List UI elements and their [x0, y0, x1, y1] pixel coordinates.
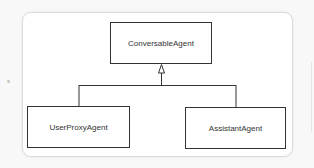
margin-text-fragment: s	[7, 78, 10, 84]
page-canvas: s ConversableAgent UserProxyAgent Assist…	[0, 0, 314, 168]
page-edge-line	[311, 62, 312, 132]
class-box-conversable-agent: ConversableAgent	[110, 22, 212, 64]
class-label: AssistantAgent	[209, 124, 262, 133]
class-box-assistant-agent: AssistantAgent	[185, 107, 286, 149]
class-label: UserProxyAgent	[49, 123, 107, 132]
class-label: ConversableAgent	[128, 39, 194, 48]
class-box-user-proxy-agent: UserProxyAgent	[27, 106, 130, 148]
